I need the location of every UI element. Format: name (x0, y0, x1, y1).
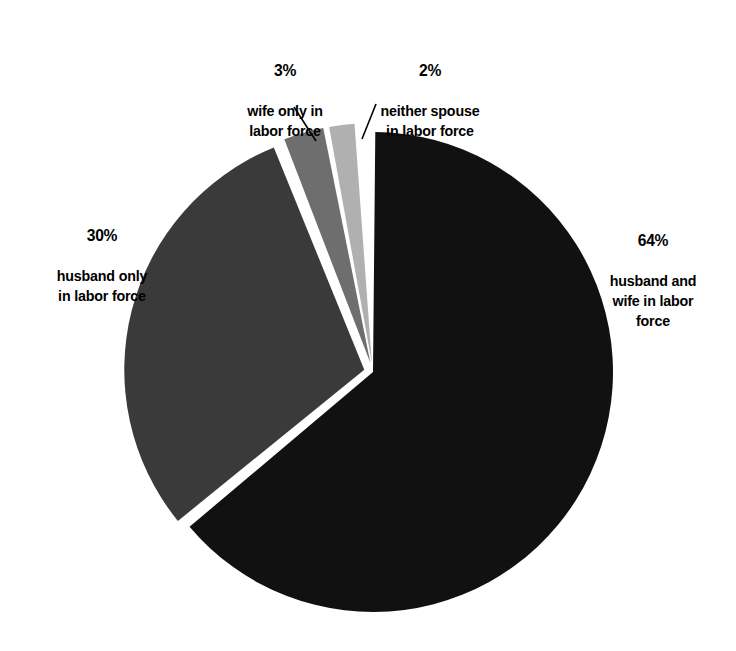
pie-label-husband-only: 30% husband only in labor force (28, 205, 175, 326)
pie-label-husband-only-percent: 30% (28, 225, 175, 247)
pie-label-neither-spouse-percent: 2% (366, 60, 495, 82)
pie-label-husband-and-wife-percent: 64% (584, 230, 722, 252)
pie-label-neither-spouse-description: neither spouse in labor force (366, 101, 495, 141)
pie-label-husband-and-wife: 64% husband and wife in labor force (584, 210, 722, 351)
pie-label-neither-spouse: 2% neither spouse in labor force (366, 40, 495, 161)
pie-label-husband-and-wife-description: husband and wife in labor force (584, 271, 722, 330)
pie-chart-figure: 3% wife only in labor force 2% neither s… (0, 0, 736, 651)
pie-label-wife-only: 3% wife only in labor force (227, 40, 343, 161)
pie-label-husband-only-description: husband only in labor force (28, 266, 175, 306)
pie-label-wife-only-percent: 3% (227, 60, 343, 82)
pie-label-wife-only-description: wife only in labor force (227, 101, 343, 141)
